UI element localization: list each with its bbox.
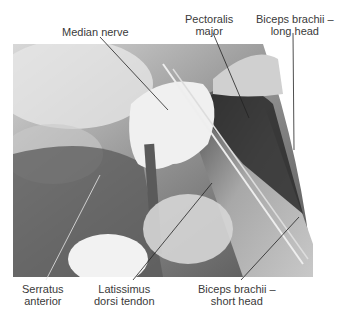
label-line-2: short head <box>198 295 276 307</box>
label-line-1: Serratus <box>22 283 64 295</box>
label-line-1: Pectoralis <box>185 13 233 25</box>
label-line-2: long head <box>256 25 334 37</box>
label-biceps-short-head: Biceps brachii – short head <box>198 283 276 307</box>
label-pectoralis-major: Pectoralis major <box>185 13 233 37</box>
dissection-photo <box>13 44 333 277</box>
label-line-2: anterior <box>22 295 64 307</box>
label-line-2: dorsi tendon <box>94 295 155 307</box>
label-line-1: Biceps brachii – <box>198 283 276 295</box>
label-line-2: major <box>185 25 233 37</box>
label-latissimus-dorsi-tendon: Latissimus dorsi tendon <box>94 283 155 307</box>
label-biceps-long-head: Biceps brachii – long head <box>256 13 334 37</box>
label-serratus-anterior: Serratus anterior <box>22 283 64 307</box>
label-line-1: Biceps brachii – <box>256 13 334 25</box>
label-median-nerve: Median nerve <box>62 26 129 38</box>
label-text: Median nerve <box>62 26 129 38</box>
label-line-1: Latissimus <box>94 283 155 295</box>
photo-rendering <box>13 44 333 277</box>
